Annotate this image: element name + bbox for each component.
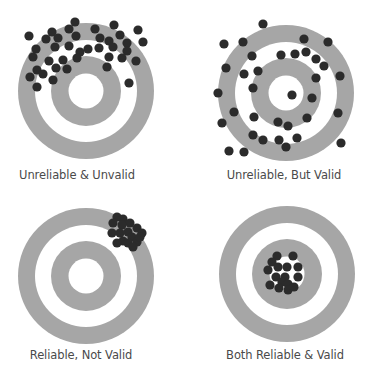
- shot-dot: [288, 251, 297, 260]
- shot-dot: [282, 262, 291, 271]
- shot-dot: [274, 283, 283, 292]
- shot-dot: [265, 280, 274, 289]
- shot-dot: [293, 272, 302, 281]
- target-label: Both Reliable & Valid: [226, 348, 344, 362]
- shot-dot: [273, 262, 282, 271]
- shot-dot: [263, 265, 272, 274]
- shot-dot: [293, 262, 302, 271]
- target-icon: [0, 0, 371, 377]
- shot-dot: [289, 282, 298, 291]
